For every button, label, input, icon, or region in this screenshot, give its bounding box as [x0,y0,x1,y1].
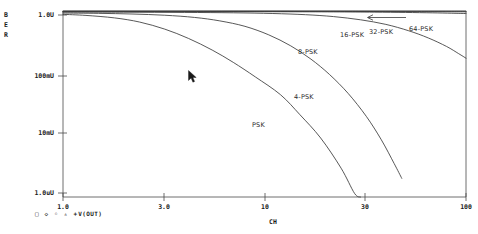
x-tick-label-3: 10 [245,203,285,211]
curve-label-16-psk: 16-PSK [340,31,364,39]
y-axis-label-letter-r: R [4,31,8,39]
y-tick-label-4: 1.0uU [4,189,54,197]
y-tick-marks [58,15,67,193]
y-tick-label-3: 10mU [4,129,54,137]
ber-curves [63,11,466,197]
x-tick-label-5: 100 [446,203,478,211]
arrow-to-64psk-annotation [368,15,407,20]
legend[interactable]: □ ◇ ◦ ▵ +V(OUT) [35,210,102,217]
plot-canvas [0,0,478,234]
curve-psk [63,14,361,197]
axis-frame [63,11,466,197]
mouse-cursor-arrow [188,70,197,83]
y-tick-label-1: 1.0U [4,11,54,19]
curve-label-psk: PSK [252,121,265,129]
x-tick-label-4: 30 [345,203,385,211]
y-tick-label-2: 100mU [4,72,54,80]
curve-label-32-psk: 32-PSK [369,28,393,36]
curve-label-8-psk: 8-PSK [298,48,318,56]
y-axis-label-letter-e: E [4,21,8,29]
x-axis-title: CH [269,218,277,226]
x-tick-label-2: 3.0 [144,203,184,211]
curve-label-4-psk: 4-PSK [294,93,314,101]
legend-marker-glyphs: □ ◇ ◦ ▵ + [35,210,78,217]
curve-label-64-psk: 64-PSK [409,25,433,33]
legend-trace-label: V(OUT) [78,210,102,217]
plot-window: B E R 1.0U 100mU 10mU 1.0uU 1.0 3.0 10 3… [0,0,478,234]
